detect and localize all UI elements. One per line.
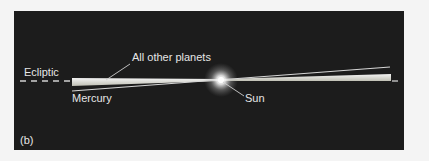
sun-label: Sun bbox=[245, 93, 265, 104]
other-planets-leader bbox=[106, 64, 130, 80]
orbital-plane-diagram bbox=[0, 0, 429, 161]
panel-label: (b) bbox=[20, 135, 33, 146]
mercury-label: Mercury bbox=[72, 93, 112, 104]
ecliptic-label: Ecliptic bbox=[24, 67, 59, 78]
other-planets-label: All other planets bbox=[132, 52, 211, 63]
planets-band-left bbox=[72, 78, 221, 86]
